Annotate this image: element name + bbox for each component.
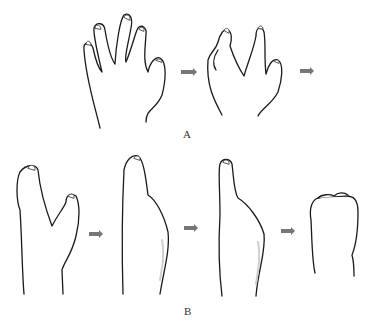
arrow-icon — [89, 230, 103, 238]
arrow-icon — [184, 224, 198, 232]
panel-a-hand-2 — [208, 26, 282, 116]
hand-progression-illustration — [0, 0, 376, 324]
panel-a-hand-1 — [84, 14, 165, 128]
panel-label-b: B — [184, 305, 191, 317]
arrow-icon — [181, 68, 197, 76]
panel-label-a: A — [183, 128, 191, 140]
panel-b-hand-1 — [17, 165, 79, 294]
arrow-icon — [281, 227, 295, 235]
panel-b-hand-4 — [310, 193, 358, 276]
panel-b-hand-2 — [122, 156, 168, 294]
arrow-icon — [300, 67, 314, 75]
panel-b-hand-3 — [219, 160, 264, 297]
